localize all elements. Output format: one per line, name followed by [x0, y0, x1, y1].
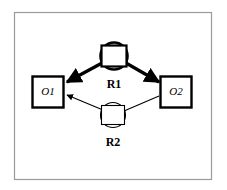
relationship-r2-inner-square: [102, 106, 125, 125]
relationship-r1-label: R1: [94, 78, 134, 90]
object-o1-label: O1: [32, 86, 64, 97]
relationship-r2-label: R2: [93, 136, 133, 148]
relationship-node-r2[interactable]: [101, 103, 126, 128]
object-o2-label: O2: [160, 86, 192, 97]
relationship-r1-inner-square: [102, 46, 127, 67]
diagram-screenshot: O1 O2 R1 R2: [0, 0, 227, 190]
relationship-node-r1[interactable]: [101, 43, 128, 70]
